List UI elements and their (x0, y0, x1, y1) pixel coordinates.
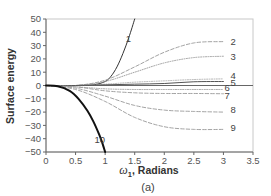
panel-caption: (a) (141, 181, 154, 193)
y-tick-label: 0 (36, 80, 41, 91)
y-axis: 50403020100−10−20−30−40−50 (25, 13, 46, 157)
y-tick-label: −30 (25, 120, 41, 131)
chart: 50403020100−10−20−30−40−50 00.511.522.53… (0, 0, 271, 196)
series-2-label: 2 (231, 36, 236, 47)
y-tick-label: 10 (30, 67, 41, 78)
x-tick-label: 3.5 (246, 155, 259, 166)
line-chart: 50403020100−10−20−30−40−50 00.511.522.53… (0, 0, 271, 196)
y-tick-label: −40 (25, 133, 41, 144)
y-tick-label: −50 (25, 146, 41, 157)
series-1-label: 1 (126, 33, 131, 44)
series-5-label: 5 (231, 77, 236, 88)
x-tick-label: 2.5 (187, 155, 200, 166)
x-tick-label: 1 (102, 155, 107, 166)
y-tick-label: 30 (30, 40, 41, 51)
y-tick-label: 20 (30, 53, 41, 64)
x-tick-label: 0 (43, 155, 48, 166)
y-tick-label: 50 (30, 13, 41, 24)
series-7-label: 7 (225, 90, 230, 101)
x-tick-label: 0.5 (69, 155, 82, 166)
y-axis-title: Surface energy (4, 48, 16, 124)
x-tick-label: 3 (221, 155, 226, 166)
y-tick-label: 40 (30, 27, 41, 38)
series-8-label: 8 (231, 104, 236, 115)
series-9-label: 9 (231, 122, 236, 133)
y-tick-label: −20 (25, 106, 41, 117)
y-tick-label: −10 (25, 93, 41, 104)
series-3-label: 3 (231, 51, 236, 62)
series-10-label: 10 (94, 134, 105, 145)
series-1-line (46, 19, 135, 86)
